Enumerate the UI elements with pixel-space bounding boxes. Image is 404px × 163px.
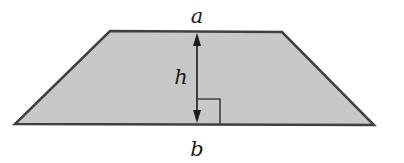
label-height: h xyxy=(174,65,188,89)
label-top-base: a xyxy=(191,4,204,28)
label-bottom-base: b xyxy=(190,137,203,161)
trapezoid-diagram: a h b xyxy=(0,0,404,163)
